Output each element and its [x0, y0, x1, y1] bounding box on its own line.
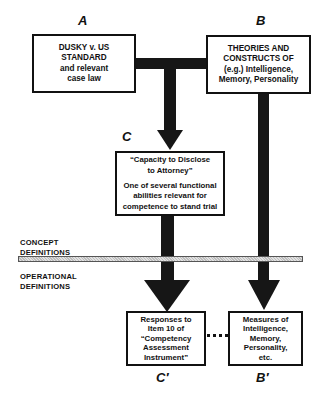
box-c-body-line: abilities relevant for	[133, 191, 207, 202]
box-a-dusky-standard: DUSKY v. US STANDARD and relevant case l…	[32, 34, 136, 93]
box-c-prime-responses: Responses to Item 10 of “Competency Asse…	[126, 311, 206, 366]
box-c-prime-line: Item 10 of	[148, 324, 184, 334]
box-b-prime-line: Intelligence,	[243, 324, 288, 334]
operational-label-line-2: DEFINITIONS	[20, 282, 77, 292]
box-a-line: and relevant	[60, 64, 108, 75]
box-b-line: (e.g.) Intelligence,	[224, 65, 293, 76]
box-a-line: DUSKY v. US	[59, 43, 110, 54]
box-b-line: Memory, Personality	[219, 75, 298, 86]
concept-operational-divider	[18, 256, 303, 262]
concept-label-line-1: CONCEPT	[20, 238, 70, 248]
box-c-title-line: “Capacity to Disclose	[130, 155, 210, 166]
connector-to-c-stem	[164, 64, 176, 132]
box-c-capacity-to-disclose: “Capacity to Disclose to Attorney” One o…	[115, 151, 225, 216]
label-a: A	[78, 14, 87, 27]
label-c: C	[122, 130, 131, 143]
box-a-line: case law	[67, 74, 101, 85]
box-c-prime-line: Instrument”	[144, 353, 188, 363]
dotted-connector-c-prime-b-prime	[207, 334, 228, 337]
diagram-canvas: A B C C′ B′ CONCEPT DEFINITIONS OPERATIO…	[0, 0, 324, 393]
box-c-title-line: to Attorney”	[147, 166, 192, 177]
connector-b-to-b-prime-stem	[258, 92, 269, 282]
operational-label-line-1: OPERATIONAL	[20, 272, 77, 282]
box-b-theories-constructs: THEORIES AND CONSTRUCTS OF (e.g.) Intell…	[206, 35, 311, 94]
box-c-body-line: competence to stand trial	[123, 202, 217, 213]
box-c-prime-line: Assessment	[143, 343, 189, 353]
box-c-prime-line: Responses to	[140, 315, 191, 325]
label-c-prime: C′	[156, 371, 169, 384]
box-b-prime-measures: Measures of Intelligence, Memory, Person…	[228, 311, 303, 366]
concept-definitions-label: CONCEPT DEFINITIONS	[20, 238, 70, 258]
label-b: B	[256, 14, 265, 27]
box-a-line: STANDARD	[61, 53, 106, 64]
operational-definitions-label: OPERATIONAL DEFINITIONS	[20, 272, 77, 292]
box-b-prime-line: Memory,	[250, 334, 281, 344]
box-b-line: CONSTRUCTS OF	[223, 54, 294, 65]
box-b-prime-line: Personality,	[244, 343, 288, 353]
arrowhead-to-c-prime-icon	[144, 280, 190, 312]
label-b-prime: B′	[256, 371, 269, 384]
arrowhead-to-b-prime-icon	[248, 280, 280, 310]
box-b-line: THEORIES AND	[228, 44, 290, 55]
box-b-prime-line: etc.	[259, 353, 272, 363]
box-c-prime-line: “Competency	[141, 334, 192, 344]
connector-c-to-c-prime-stem	[161, 214, 174, 282]
arrowhead-to-c-icon	[157, 130, 183, 150]
box-b-prime-line: Measures of	[243, 315, 289, 325]
box-c-body-line: One of several functional	[123, 181, 216, 192]
